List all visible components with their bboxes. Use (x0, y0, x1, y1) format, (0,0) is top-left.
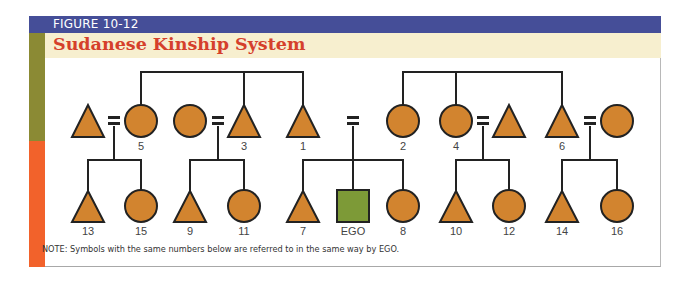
female-circle-icon (387, 190, 419, 222)
male-triangle-icon (440, 191, 472, 222)
kin-label: 1 (300, 140, 306, 152)
kin-label: 13 (82, 225, 94, 237)
children-line-couple-6 (562, 160, 617, 192)
female-circle-icon (601, 105, 633, 137)
male-triangle-icon (287, 105, 319, 137)
female-circle-icon (125, 105, 157, 137)
male-triangle-icon (174, 191, 206, 222)
kin-label: 8 (400, 225, 406, 237)
female-circle-icon (125, 190, 157, 222)
sibling-line-right (403, 72, 562, 105)
kin-label: 4 (453, 140, 459, 152)
equals-icon (108, 116, 120, 119)
female-circle-icon (228, 190, 260, 222)
children-line-couple-5 (88, 160, 141, 192)
female-circle-icon (493, 190, 525, 222)
equals-icon (477, 116, 489, 119)
sibling-line-left (141, 72, 303, 105)
children-line-couple-3 (190, 160, 244, 192)
equals-icon (108, 122, 120, 125)
male-triangle-icon (228, 105, 260, 137)
equals-icon (347, 122, 359, 125)
equals-icon (477, 122, 489, 125)
kin-label: 3 (241, 140, 247, 152)
kin-label: 2 (400, 140, 406, 152)
kin-label: 15 (135, 225, 147, 237)
kin-label: 16 (611, 225, 623, 237)
female-circle-icon (440, 105, 472, 137)
kin-label: 12 (503, 225, 515, 237)
ego-square-icon (337, 190, 369, 222)
equals-icon (347, 116, 359, 119)
ego-label: EGO (341, 225, 365, 237)
male-triangle-icon (287, 191, 319, 222)
male-triangle-icon (546, 191, 578, 222)
kinship-lines (88, 72, 617, 192)
female-circle-icon (387, 105, 419, 137)
equals-icon (584, 116, 596, 119)
male-triangle-icon (72, 191, 104, 222)
kin-label: 14 (556, 225, 568, 237)
kin-label: 10 (450, 225, 462, 237)
children-line-couple-4 (456, 160, 509, 192)
male-triangle-icon (72, 105, 104, 137)
kin-label: 11 (238, 225, 249, 237)
equals-icon (212, 122, 224, 125)
male-triangle-icon (493, 105, 525, 137)
figure-note: NOTE: Symbols with the same numbers belo… (42, 244, 399, 254)
equals-icon (584, 122, 596, 125)
male-triangle-icon (546, 105, 578, 137)
kin-label: 9 (187, 225, 193, 237)
equals-icon (212, 116, 224, 119)
generation-2 (72, 190, 633, 222)
kin-label: 7 (300, 225, 306, 237)
kin-label: 5 (138, 140, 144, 152)
female-circle-icon (174, 105, 206, 137)
female-circle-icon (601, 190, 633, 222)
kin-label: 6 (559, 140, 565, 152)
